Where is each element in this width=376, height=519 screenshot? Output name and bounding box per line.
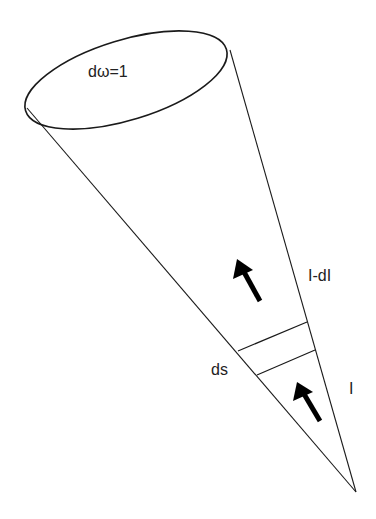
- arrow-upper-icon: [233, 259, 260, 301]
- cone-left-edge: [27, 108, 356, 492]
- cone-diagram: dω=1 I-dI I ds: [0, 0, 376, 519]
- solid-angle-label: dω=1: [88, 63, 128, 80]
- intensity-in-label: I: [349, 380, 353, 397]
- slab-upper-boundary: [238, 322, 307, 351]
- arrow-lower-icon: [293, 382, 320, 421]
- slab-lower-boundary: [257, 350, 315, 375]
- cone-opening-ellipse: [14, 11, 238, 149]
- intensity-out-label: I-dI: [308, 267, 331, 284]
- path-element-label: ds: [211, 361, 228, 378]
